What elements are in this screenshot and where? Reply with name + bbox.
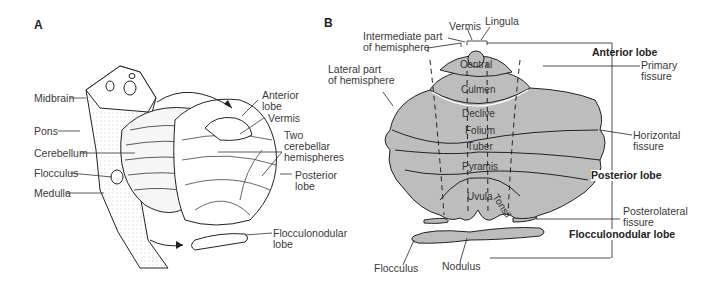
label-lateral: Lateral part of hemisphere: [328, 64, 395, 86]
label-horizontal-fissure-line2: fissure: [633, 141, 680, 152]
label-flocculus-a: Flocculus: [34, 168, 78, 179]
label-vermis-a: Vermis: [268, 113, 300, 124]
label-flocculus-b: Flocculus: [374, 263, 418, 274]
label-lingula: Lingula: [485, 16, 519, 27]
label-primary-fissure-line2: fissure: [641, 71, 677, 82]
label-anterior-lobe-b: Anterior lobe: [592, 47, 657, 58]
label-posterior-lobe-b: Posterior lobe: [591, 170, 662, 181]
label-posterior-lobe-a: Posterior lobe: [295, 170, 337, 192]
label-posterolateral-fissure: Posterolateral fissure: [623, 206, 688, 228]
label-flocculonodular-line2: lobe: [273, 239, 347, 250]
label-uvula: Uvula: [467, 191, 493, 202]
label-posterior-lobe-line2: lobe: [295, 181, 337, 192]
label-tonsil: Tonsil: [491, 192, 514, 220]
label-anterior-lobe-line2: lobe: [262, 101, 299, 112]
label-midbrain: Midbrain: [34, 93, 74, 104]
label-nodulus: Nodulus: [442, 261, 481, 272]
panel-b-letter: B: [324, 16, 333, 30]
label-declive: Declive: [462, 108, 495, 119]
label-tuber: Tuber: [467, 141, 493, 152]
label-posterolateral-line2: fissure: [623, 217, 688, 228]
label-intermediate: Intermediate part of hemisphere: [363, 31, 442, 53]
label-vermis-b: Vermis: [449, 21, 481, 32]
label-horizontal-fissure: Horizontal fissure: [633, 130, 680, 152]
label-primary-fissure: Primary fissure: [641, 60, 677, 82]
label-flocculonodular-lobe-b: Flocculonodular lobe: [569, 229, 675, 240]
label-culmen: Culmen: [461, 84, 495, 95]
label-flocculonodular-a: Flocculonodular lobe: [273, 228, 347, 250]
label-lateral-line2: of hemisphere: [328, 75, 395, 86]
label-anterior-lobe-a: Anterior lobe: [262, 90, 299, 112]
label-pons: Pons: [34, 126, 58, 137]
label-intermediate-line2: of hemisphere: [363, 42, 442, 53]
label-hemispheres: Two cerebellar hemispheres: [284, 130, 344, 163]
label-cerebellum: Cerebellum: [34, 148, 88, 159]
label-medulla: Medulla: [34, 188, 71, 199]
label-central: Central: [460, 59, 492, 70]
label-folium: Folium: [465, 125, 495, 136]
label-pyramis: Pyramis: [462, 161, 498, 172]
label-hemispheres-line3: hemispheres: [284, 152, 344, 163]
